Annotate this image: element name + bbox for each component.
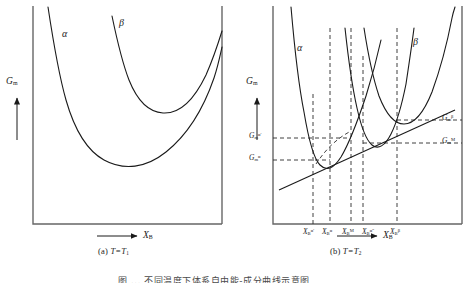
beta-curve-b	[364, 7, 455, 124]
panel-b-caption: (b) T=T2	[330, 246, 361, 256]
panel-a-caption-sub: 1	[126, 250, 129, 256]
y-tick-g-alpha-prime-sup: α′	[258, 132, 261, 137]
y-tick-g-beta: Gmβ	[442, 113, 453, 122]
x-tick-alpha-dprime: XBα″	[362, 227, 374, 236]
y-tick-g-m: GmM	[442, 136, 455, 145]
x-tick-alpha: XBα	[322, 227, 332, 236]
y-axis-label-a-sub: m	[13, 80, 18, 86]
x-tick-alpha-sup: α	[330, 228, 332, 233]
figure-svg	[0, 0, 465, 283]
x-tick-alpha-dprime-sup: α″	[370, 228, 374, 233]
beta-curve-label-b: β	[413, 36, 418, 47]
alpha-curve-label-b: α	[297, 42, 302, 53]
x-axis-label-a-sub: B	[149, 234, 153, 240]
panel-a-caption: (a) T=T1	[98, 246, 129, 256]
panel-a-caption-expr: T=T	[110, 246, 126, 256]
x-axis-label-a: XB	[143, 230, 153, 240]
y-tick-g-alpha-sup: α	[258, 154, 260, 159]
x-tick-beta-sup: β	[398, 228, 400, 233]
y-axis-label-b-sub: m	[253, 80, 258, 86]
figure-bottom-caption: 图 ... 不同温度下体系自由能-成分曲线示意图	[118, 274, 310, 283]
alpha-curve-label-a: α	[62, 28, 67, 39]
alpha-curve-a	[48, 7, 222, 167]
panel-b-caption-prefix: (b)	[330, 246, 341, 256]
x-tick-alpha-prime: XBα′	[303, 227, 314, 236]
panel-a	[17, 6, 222, 236]
alpha-curve-b	[291, 7, 381, 168]
x-tick-m: XBM	[342, 227, 354, 236]
x-tick-alpha-prime-sup: α′	[311, 228, 314, 233]
panel-b-caption-sub: 2	[359, 250, 362, 256]
y-axis-label-a: Gm	[6, 76, 17, 86]
y-tick-g-alpha: Gmα	[249, 153, 260, 162]
y-axis-label-b: Gm	[246, 76, 257, 86]
beta-curve-label-a: β	[119, 17, 124, 28]
y-axis-label-a-base: G	[6, 76, 13, 86]
panel-a-caption-prefix: (a)	[98, 246, 108, 256]
y-axis-label-b-base: G	[246, 76, 253, 86]
panel-b-caption-expr: T=T	[343, 246, 359, 256]
y-tick-g-m-sup: M	[451, 137, 455, 142]
y-tick-g-alpha-prime: Gmα′	[249, 131, 262, 140]
x-tick-beta: XBβ	[390, 227, 400, 236]
x-tick-m-sup: M	[350, 228, 354, 233]
figure-container: Gm XB α β Gm XB α β XBα′ XBα XBM XBα″ XB…	[0, 0, 465, 283]
y-tick-g-beta-sup: β	[451, 114, 453, 119]
panel-b	[257, 6, 462, 236]
panel-b-frame	[273, 6, 462, 224]
